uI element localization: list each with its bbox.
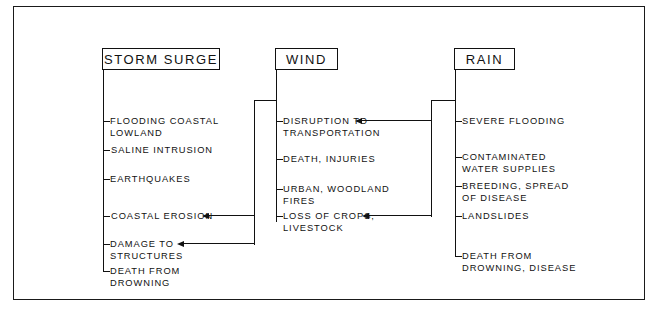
tick-storm-2 xyxy=(103,150,110,151)
item-storm-saline-intrusion: SALINE INTRUSION xyxy=(111,145,213,157)
item-rain-contaminated-water-supplies: CONTAMINATED WATER SUPPLIES xyxy=(462,152,556,175)
tick-storm-1 xyxy=(103,121,110,122)
item-rain-severe-flooding: SEVERE FLOODING xyxy=(462,116,565,128)
connector-wind-top-horizontal xyxy=(254,100,277,101)
arrowhead-loss-of-crops xyxy=(362,213,369,219)
item-wind-death-injuries: DEATH, INJURIES xyxy=(283,154,376,166)
header-box-storm-surge: STORM SURGE xyxy=(102,48,220,70)
tick-rain-1 xyxy=(455,121,462,122)
item-storm-earthquakes: EARTHQUAKES xyxy=(110,174,191,186)
item-rain-landslides: LANDSLIDES xyxy=(462,211,529,223)
header-label-storm-surge: STORM SURGE xyxy=(104,52,218,67)
connector-rain-vertical xyxy=(431,100,432,217)
connector-wind-to-coastal-erosion xyxy=(209,215,255,216)
tick-wind-4 xyxy=(276,216,283,217)
header-box-wind: WIND xyxy=(275,48,338,70)
item-storm-coastal-erosion: COASTAL EROSION xyxy=(111,211,213,223)
stem-wind xyxy=(276,69,277,222)
tick-rain-5 xyxy=(455,256,462,257)
stem-storm-surge xyxy=(103,69,104,272)
stem-rain xyxy=(455,69,456,256)
connector-wind-to-damage-structures xyxy=(184,243,255,244)
arrowhead-disruption-transportation xyxy=(355,118,362,124)
item-rain-death-from-drowning-disease: DEATH FROM DROWNING, DISEASE xyxy=(462,251,576,274)
connector-wind-vertical xyxy=(254,100,255,245)
tick-rain-4 xyxy=(455,216,462,217)
connector-rain-to-disruption xyxy=(362,120,432,121)
tick-wind-3 xyxy=(276,189,283,190)
diagram-page: STORM SURGE FLOODING COASTAL LOWLAND SAL… xyxy=(0,0,659,323)
tick-storm-5 xyxy=(103,244,110,245)
tick-storm-6 xyxy=(103,271,110,272)
tick-wind-1 xyxy=(276,121,283,122)
connector-rain-to-loss-of-crops xyxy=(369,215,432,216)
header-box-rain: RAIN xyxy=(454,48,515,70)
tick-rain-2 xyxy=(455,157,462,158)
item-wind-urban-woodland-fires: URBAN, WOODLAND FIRES xyxy=(283,184,390,207)
connector-rain-top-horizontal xyxy=(431,100,456,101)
item-rain-breeding-spread-of-disease: BREEDING, SPREAD OF DISEASE xyxy=(462,181,569,204)
tick-storm-4 xyxy=(103,216,110,217)
arrowhead-damage-structures xyxy=(177,241,184,247)
tick-storm-3 xyxy=(103,179,110,180)
diagram-frame: STORM SURGE FLOODING COASTAL LOWLAND SAL… xyxy=(13,6,645,300)
tick-rain-3 xyxy=(455,186,462,187)
arrowhead-coastal-erosion xyxy=(202,213,209,219)
item-storm-death-from-drowning: DEATH FROM DROWNING xyxy=(110,266,180,289)
header-label-wind: WIND xyxy=(286,52,327,67)
tick-wind-2 xyxy=(276,159,283,160)
header-label-rain: RAIN xyxy=(466,52,503,67)
item-storm-damage-to-structures: DAMAGE TO STRUCTURES xyxy=(110,239,183,262)
item-storm-flooding-coastal-lowland: FLOODING COASTAL LOWLAND xyxy=(110,116,219,139)
